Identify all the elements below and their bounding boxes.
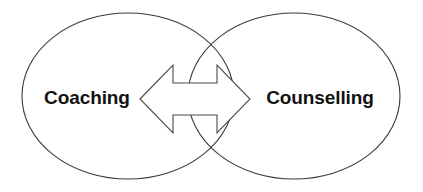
venn-diagram-container: Coaching Counselling xyxy=(0,0,423,192)
left-ellipse-label: Coaching xyxy=(44,88,130,107)
right-ellipse-label: Counselling xyxy=(266,88,374,107)
